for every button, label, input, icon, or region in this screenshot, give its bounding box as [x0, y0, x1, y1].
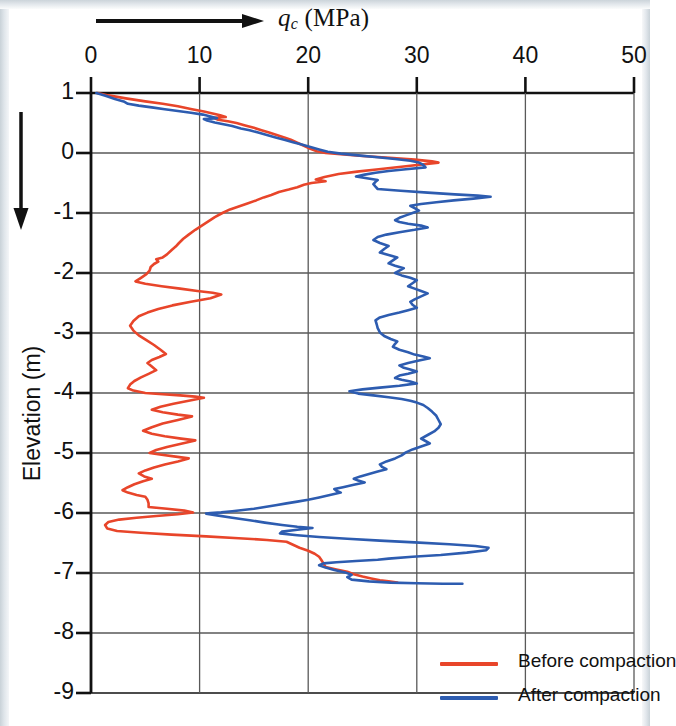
x-tick-label: 20 — [278, 42, 338, 69]
legend-label-before: Before compaction — [518, 650, 676, 672]
y-tick-label: -8 — [28, 618, 74, 645]
y-tick-label: -6 — [28, 498, 74, 525]
y-tick-label: -7 — [28, 558, 74, 585]
legend-entry-after: After compaction — [440, 682, 640, 716]
y-tick-label: -9 — [28, 678, 74, 705]
y-tick-label: -3 — [28, 318, 74, 345]
x-tick-label: 10 — [170, 42, 230, 69]
chart-legend: Before compaction After compaction — [440, 648, 640, 716]
x-tick-label: 0 — [61, 42, 121, 69]
legend-entry-before: Before compaction — [440, 648, 640, 682]
y-tick-label: -2 — [28, 258, 74, 285]
y-tick-label: -4 — [28, 378, 74, 405]
y-tick-label: 1 — [28, 78, 74, 105]
y-tick-label: -1 — [28, 198, 74, 225]
legend-swatch-after — [440, 696, 498, 700]
y-tick-label: 0 — [28, 138, 74, 165]
x-tick-label: 50 — [604, 42, 664, 69]
y-tick-label: -5 — [28, 438, 74, 465]
x-tick-label: 30 — [387, 42, 447, 69]
legend-label-after: After compaction — [518, 684, 661, 706]
series-line-after-compaction — [96, 93, 490, 584]
legend-swatch-before — [440, 662, 498, 666]
x-tick-label: 40 — [495, 42, 555, 69]
